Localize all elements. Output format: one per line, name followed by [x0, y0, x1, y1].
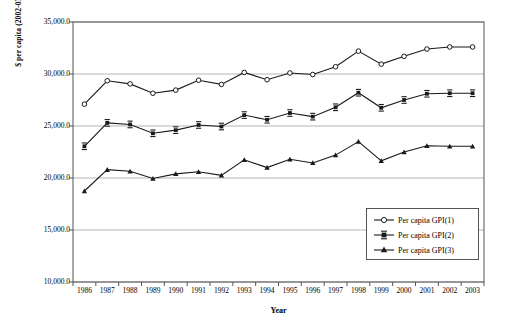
data-point [310, 72, 315, 77]
series-line [84, 142, 472, 191]
data-point [402, 98, 406, 102]
legend-item-gpi3[interactable]: Per capita GPI(3) [373, 243, 454, 257]
data-point [242, 113, 246, 117]
data-point [379, 62, 384, 67]
data-point [448, 91, 452, 95]
data-point [356, 49, 361, 54]
data-point [311, 115, 315, 119]
data-point [219, 82, 224, 87]
data-point [173, 88, 178, 93]
filled-square-marker-icon [373, 229, 395, 241]
data-point [470, 45, 475, 50]
data-point [196, 78, 201, 83]
data-point [128, 123, 132, 127]
legend-label-gpi3: Per capita GPI(3) [398, 246, 454, 255]
filled-triangle-marker-icon [373, 244, 395, 256]
data-point [151, 91, 156, 96]
series-2 [82, 89, 475, 149]
chart-legend: Per capita GPI(1) Per capita GPI(2) Pe [366, 208, 479, 260]
data-point [356, 139, 361, 144]
series-3 [82, 139, 476, 193]
data-point [357, 91, 361, 95]
data-point [402, 54, 407, 59]
data-point [151, 131, 155, 135]
chart-container: $ per capita (2002-03 prices) 10,000.015… [0, 0, 514, 329]
data-point [425, 92, 429, 96]
legend-item-gpi1[interactable]: Per capita GPI(1) [373, 213, 454, 227]
data-point [128, 82, 133, 87]
legend-label-gpi2: Per capita GPI(2) [398, 231, 454, 240]
data-point [447, 45, 452, 50]
data-point [242, 157, 247, 162]
plot-svg [0, 0, 514, 329]
data-point [379, 106, 383, 110]
data-point [333, 64, 338, 69]
x-axis-title: Year [73, 306, 484, 315]
legend-item-gpi2[interactable]: Per capita GPI(2) [373, 228, 454, 242]
data-point [174, 128, 178, 132]
data-point [242, 70, 247, 75]
data-point [471, 91, 475, 95]
data-point [333, 153, 338, 158]
data-point [334, 105, 338, 109]
series-line [84, 93, 472, 147]
data-point [105, 78, 110, 83]
data-point [265, 118, 269, 122]
data-point [82, 102, 87, 107]
open-circle-marker-icon [373, 214, 395, 226]
series-line [84, 47, 472, 104]
data-point [425, 47, 430, 52]
data-point [288, 111, 292, 115]
data-point [288, 71, 293, 76]
data-point [220, 125, 224, 129]
data-point [83, 144, 87, 148]
x-tick-label: 2003 [458, 286, 488, 295]
data-point [265, 77, 270, 82]
legend-label-gpi1: Per capita GPI(1) [398, 216, 454, 225]
data-point [105, 121, 109, 125]
data-point [197, 123, 201, 127]
